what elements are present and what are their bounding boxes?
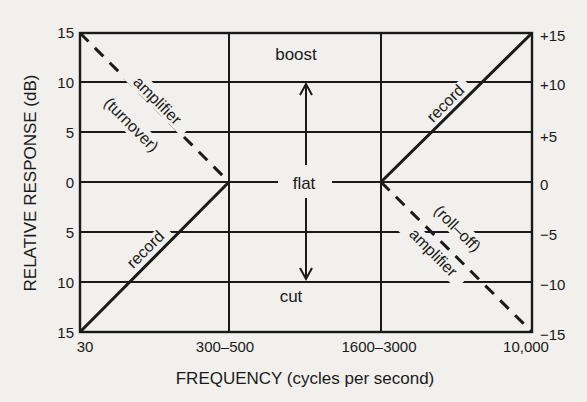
response-chart: amplifier (turnover) record record (roll… [0, 0, 587, 402]
y-axis-title: RELATIVE RESPONSE (dB) [21, 75, 40, 292]
y-tick-left: 5 [66, 224, 74, 241]
y-axis-right-ticks: +15 +10 +5 0 −5 −10 −15 [540, 27, 565, 343]
x-tick: 30 [77, 338, 94, 355]
boost-label: boost [275, 45, 317, 64]
cut-label: cut [280, 287, 303, 306]
y-tick-right: −10 [540, 276, 565, 293]
y-tick-left: 5 [66, 124, 74, 141]
y-tick-left: 10 [57, 274, 74, 291]
y-tick-left: 10 [57, 74, 74, 91]
y-tick-right: +15 [540, 27, 565, 44]
y-tick-right: 0 [540, 176, 548, 193]
x-tick: 1600–3000 [341, 338, 416, 355]
x-tick: 300–500 [196, 338, 254, 355]
record-left-line [80, 182, 229, 332]
record-right-line [381, 33, 532, 182]
y-tick-left: 0 [66, 174, 74, 191]
y-tick-left: 15 [57, 324, 74, 341]
flat-label: flat [293, 174, 316, 193]
y-tick-right: +5 [540, 128, 557, 145]
x-tick: 10,000 [503, 338, 549, 355]
y-tick-right: −5 [540, 226, 557, 243]
y-axis-left-ticks: 15 10 5 0 5 10 15 [57, 24, 74, 341]
x-axis-ticks: 30 300–500 1600–3000 10,000 [77, 338, 549, 355]
y-tick-right: +10 [540, 76, 565, 93]
amplifier-rolloff-line [381, 182, 532, 332]
x-axis-title: FREQUENCY (cycles per second) [176, 369, 435, 388]
y-tick-left: 15 [57, 24, 74, 41]
